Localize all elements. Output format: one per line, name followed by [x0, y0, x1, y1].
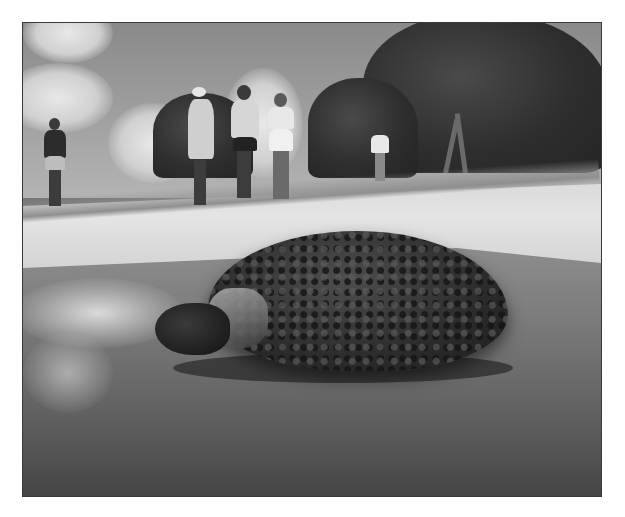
head: [274, 93, 287, 107]
legs: [49, 170, 61, 206]
person-with-hat: [186, 87, 216, 207]
torso: [231, 100, 259, 138]
person-woman: [265, 93, 297, 201]
head: [49, 118, 60, 130]
shorts: [269, 129, 293, 151]
trees-mid: [308, 78, 418, 178]
turtle-head: [155, 303, 230, 355]
torso: [371, 135, 389, 153]
person-left: [41, 118, 71, 208]
head: [237, 85, 251, 100]
legs: [194, 159, 206, 205]
torso: [44, 130, 66, 158]
shorts: [233, 137, 257, 151]
head: [375, 125, 384, 135]
person-center: [228, 85, 262, 200]
person-far-right: [370, 125, 390, 183]
legs: [237, 151, 251, 198]
photograph: [22, 22, 602, 497]
torso: [188, 99, 214, 159]
hat: [192, 87, 206, 97]
legs: [273, 151, 289, 199]
torso: [268, 107, 294, 129]
wave-foam: [23, 333, 113, 413]
legs: [375, 153, 385, 181]
shorts: [45, 156, 65, 170]
